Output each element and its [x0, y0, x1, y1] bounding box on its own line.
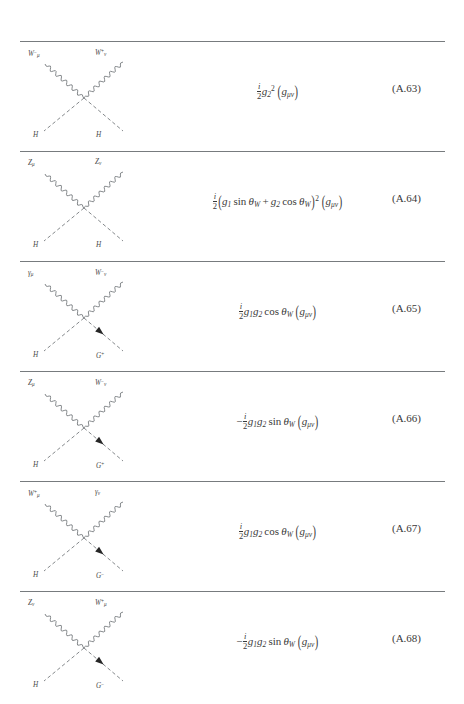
- charge-flow-arrow: [95, 657, 103, 665]
- charge-flow-arrow: [95, 327, 103, 335]
- leg-label-top-right: γν: [95, 489, 100, 496]
- equation-tag: (A.65): [392, 302, 421, 314]
- leg-label-bottom-right: G−: [96, 572, 104, 580]
- leg-label-top-left: Zμ: [28, 380, 35, 387]
- leg-label-top-left: W−μ: [28, 50, 40, 58]
- row-a68: ZνW+μHG−−i2g1g2sinθW(gμν)(A.68): [0, 592, 464, 702]
- feynman-diagram-z-w-h-gplus: ZμW−νHG+: [22, 372, 172, 480]
- vertex-factor-equation: i2g22(gμν): [185, 82, 370, 100]
- vertex-factor-equation: i2(g1sinθW+g2cosθW)2(gμν): [185, 192, 370, 210]
- feynman-diagram-z-w-h-gminus: ZνW+μHG−: [22, 592, 172, 700]
- feynman-diagram-zzhh: ZμZνHH: [22, 152, 172, 260]
- leg-label-bottom-right: H: [96, 132, 101, 139]
- leg-label-top-left: Zμ: [28, 160, 35, 167]
- feynman-diagram-w-gamma-h-gminus: W+μγνHG−: [22, 482, 172, 590]
- leg-label-top-left: γμ: [28, 270, 33, 277]
- row-a63: W−μW+νHHi2g22(gμν)(A.63): [0, 42, 464, 152]
- leg-label-bottom-right: G+: [96, 352, 104, 360]
- row-a64: ZμZνHHi2(g1sinθW+g2cosθW)2(gμν)(A.64): [0, 152, 464, 262]
- row-a65: γμW−νHG+i2g1g2cosθW(gμν)(A.65): [0, 262, 464, 372]
- leg-label-bottom-left: H: [33, 462, 38, 469]
- leg-label-top-right: W−ν: [95, 269, 106, 277]
- feynman-diagram-gamma-w-h-gplus: γμW−νHG+: [22, 262, 172, 370]
- leg-label-bottom-left: H: [33, 352, 38, 359]
- leg-label-top-left: W+μ: [28, 490, 40, 498]
- equation-tag: (A.66): [392, 412, 421, 424]
- appendix-page: W−μW+νHHi2g22(gμν)(A.63)ZμZνHHi2(g1sinθW…: [0, 0, 464, 704]
- leg-label-top-right: Zν: [95, 159, 101, 166]
- vertex-factor-equation: −i2g1g2sinθW(gμν): [185, 632, 370, 650]
- vertex-factor-equation: i2g1g2cosθW(gμν): [185, 522, 370, 540]
- vertex-factor-equation: −i2g1g2sinθW(gμν): [185, 412, 370, 430]
- leg-label-top-right: W+ν: [95, 49, 106, 57]
- leg-label-top-left: Zν: [28, 600, 34, 607]
- equation-tag: (A.64): [392, 192, 421, 204]
- vertex-factor-equation: i2g1g2cosθW(gμν): [185, 302, 370, 320]
- equation-tag: (A.68): [392, 632, 421, 644]
- leg-label-top-right: W−ν: [95, 379, 106, 387]
- leg-label-bottom-left: H: [33, 242, 38, 249]
- leg-label-bottom-right: G+: [96, 462, 104, 470]
- leg-label-bottom-left: H: [33, 132, 38, 139]
- leg-label-bottom-right: H: [96, 242, 101, 249]
- leg-label-bottom-left: H: [33, 682, 38, 689]
- feynman-diagram-wwhh: W−μW+νHH: [22, 42, 172, 150]
- charge-flow-arrow: [95, 547, 103, 555]
- leg-label-bottom-left: H: [33, 572, 38, 579]
- equation-tag: (A.67): [392, 522, 421, 534]
- row-a67: W+μγνHG−i2g1g2cosθW(gμν)(A.67): [0, 482, 464, 592]
- leg-label-top-right: W+μ: [95, 599, 107, 607]
- row-a66: ZμW−νHG+−i2g1g2sinθW(gμν)(A.66): [0, 372, 464, 482]
- charge-flow-arrow: [95, 437, 103, 445]
- leg-label-bottom-right: G−: [96, 682, 104, 690]
- equation-tag: (A.63): [392, 82, 421, 94]
